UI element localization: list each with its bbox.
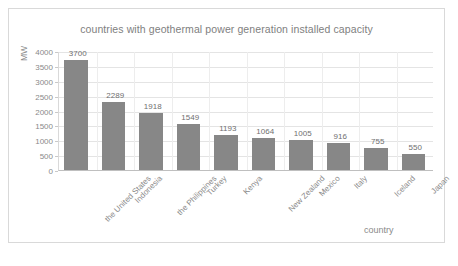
- y-axis-tick: [55, 171, 58, 172]
- y-axis-tick: [55, 141, 58, 142]
- y-axis-tick: [55, 112, 58, 113]
- y-axis-tick-label: 4000: [35, 48, 53, 57]
- chart-screenshot: countries with geothermal power generati…: [0, 0, 458, 266]
- bar-slot: 3700: [59, 52, 97, 170]
- x-axis-tick-label: Italy: [352, 174, 369, 191]
- y-axis-tick-label: 500: [40, 152, 53, 161]
- y-axis-tick-label: 0: [49, 167, 53, 176]
- y-axis-tick-label: 3500: [35, 62, 53, 71]
- bar-value-label: 1064: [256, 127, 274, 136]
- bar-slot: 1193: [209, 52, 247, 170]
- bar-value-label: 916: [334, 132, 347, 141]
- bar[interactable]: [139, 113, 162, 170]
- y-axis-tick: [55, 97, 58, 98]
- bar[interactable]: [214, 135, 237, 170]
- bar-slot: 1064: [247, 52, 285, 170]
- bar-slot: 550: [397, 52, 435, 170]
- y-axis-tick-label: 1000: [35, 137, 53, 146]
- bar-value-label: 3700: [69, 49, 87, 58]
- bar-slot: 755: [359, 52, 397, 170]
- y-axis-tick-label: 3000: [35, 77, 53, 86]
- bar-value-label: 550: [409, 143, 422, 152]
- bar-slot: 1918: [134, 52, 172, 170]
- plot-area: 05001000150020002500300035004000 3700228…: [58, 52, 433, 171]
- bar[interactable]: [327, 143, 350, 170]
- bar-value-label: 1005: [294, 129, 312, 138]
- chart-title: countries with geothermal power generati…: [9, 23, 444, 35]
- bar-slot: 1549: [172, 52, 210, 170]
- bar[interactable]: [102, 102, 125, 170]
- y-axis-tick-label: 2000: [35, 107, 53, 116]
- y-axis-tick: [55, 126, 58, 127]
- y-axis-tick: [55, 156, 58, 157]
- bar[interactable]: [289, 140, 312, 170]
- bar-value-label: 755: [371, 137, 384, 146]
- y-axis-tick: [55, 67, 58, 68]
- y-axis-tick: [55, 82, 58, 83]
- bar-value-label: 1918: [144, 102, 162, 111]
- bar[interactable]: [64, 60, 87, 170]
- bar-value-label: 1193: [219, 124, 236, 133]
- bar-slot: 2289: [97, 52, 135, 170]
- x-axis-tick-label: Japan: [429, 174, 451, 196]
- bar-value-label: 2289: [106, 91, 124, 100]
- bar-slot: 916: [322, 52, 360, 170]
- bar[interactable]: [252, 138, 275, 170]
- bar[interactable]: [177, 124, 200, 170]
- y-axis-tick-label: 2500: [35, 92, 53, 101]
- y-axis-tick-label: 1500: [35, 122, 53, 131]
- x-axis-tick-label: Kenya: [242, 174, 264, 196]
- bar[interactable]: [364, 148, 387, 170]
- chart-container: countries with geothermal power generati…: [8, 8, 445, 243]
- x-axis-title: country: [364, 225, 394, 235]
- bar-slot: 1005: [284, 52, 322, 170]
- y-axis-tick: [55, 52, 58, 53]
- bar-value-label: 1549: [181, 113, 199, 122]
- y-axis-title: MW: [19, 46, 29, 61]
- bar[interactable]: [402, 154, 425, 170]
- x-axis-tick-label: Iceland: [393, 174, 418, 199]
